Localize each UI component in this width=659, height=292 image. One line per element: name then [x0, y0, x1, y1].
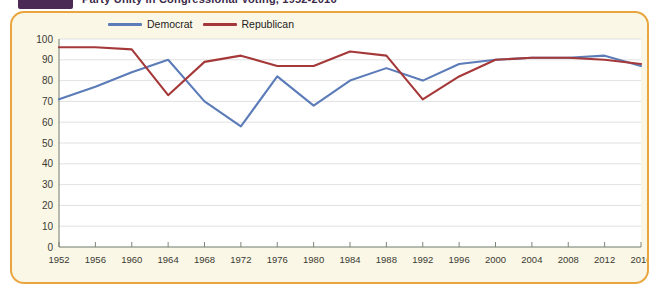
y-axis-tick-label: 80 — [42, 75, 54, 86]
legend-label-democrat: Democrat — [147, 18, 193, 30]
x-axis-tick-label: 1972 — [230, 254, 251, 265]
legend-swatch-democrat — [108, 23, 142, 26]
y-axis-tick-label: 90 — [42, 54, 54, 65]
x-axis-tick-label: 2008 — [558, 254, 579, 265]
y-axis-tick-label: 0 — [47, 242, 53, 253]
x-axis-tick-label: 1992 — [412, 254, 433, 265]
legend-swatch-republican — [203, 23, 237, 26]
x-axis-tick-label: 1988 — [376, 254, 397, 265]
y-axis-tick-label: 10 — [42, 221, 54, 232]
y-axis-tick-label: 70 — [42, 96, 54, 107]
legend-label-republican: Republican — [242, 18, 295, 30]
plot-area: 0102030405060708090100195219561960196419… — [12, 31, 649, 284]
x-axis-tick-label: 1984 — [339, 254, 360, 265]
x-axis-tick-label: 1968 — [194, 254, 215, 265]
x-axis-tick-label: 1956 — [85, 254, 106, 265]
y-axis-tick-label: 50 — [42, 138, 54, 149]
y-axis-tick-label: 60 — [42, 117, 54, 128]
x-axis-tick-label: 1976 — [267, 254, 288, 265]
y-axis-tick-label: 40 — [42, 158, 54, 169]
legend-item-republican: Republican — [203, 18, 295, 30]
clipped-header-strip: Party Unity in Congressional Voting, 195… — [0, 0, 659, 11]
y-axis-tick-label: 30 — [42, 179, 54, 190]
page-title: Party Unity in Congressional Voting, 195… — [82, 0, 337, 5]
y-axis-tick-label: 20 — [42, 200, 54, 211]
chart-legend: Democrat Republican — [108, 18, 294, 30]
y-axis-tick-label: 100 — [36, 34, 53, 45]
chapter-tab-marker — [18, 0, 73, 9]
line-chart: 0102030405060708090100195219561960196419… — [12, 31, 649, 284]
x-axis-tick-label: 2004 — [521, 254, 542, 265]
x-axis-tick-label: 1996 — [449, 254, 470, 265]
x-axis-tick-label: 2000 — [485, 254, 506, 265]
legend-item-democrat: Democrat — [108, 18, 193, 30]
chart-panel: Democrat Republican 01020304050607080901… — [10, 11, 649, 284]
x-axis-tick-label: 1964 — [158, 254, 179, 265]
x-axis-tick-label: 2012 — [594, 254, 615, 265]
x-axis-tick-label: 1980 — [303, 254, 324, 265]
x-axis-tick-label: 1960 — [121, 254, 142, 265]
x-axis-tick-label: 2016 — [630, 254, 649, 265]
x-axis-tick-label: 1952 — [48, 254, 69, 265]
